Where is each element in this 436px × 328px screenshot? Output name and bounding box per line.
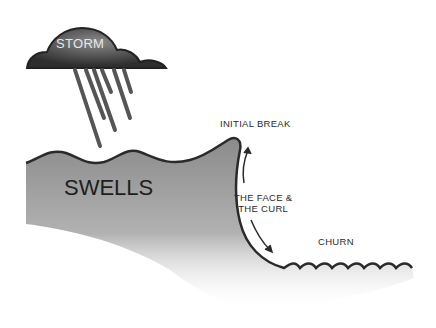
arrow-down-icon bbox=[251, 220, 272, 252]
face-label-line2: THE CURL bbox=[234, 203, 292, 214]
arrow-up-icon bbox=[243, 148, 251, 183]
storm-label: STORM bbox=[56, 36, 104, 51]
swells-label: SWELLS bbox=[64, 175, 153, 201]
face-label-line1: THE FACE & bbox=[234, 192, 292, 203]
water-body bbox=[26, 138, 414, 311]
face-curl-label: THE FACE & THE CURL bbox=[234, 192, 292, 214]
initial-break-label: INITIAL BREAK bbox=[220, 118, 291, 129]
rain-icon bbox=[75, 70, 131, 146]
wave-diagram: STORM SWELLS INITIAL BREAK THE FACE & TH… bbox=[0, 0, 436, 328]
churn-label: CHURN bbox=[318, 236, 354, 247]
